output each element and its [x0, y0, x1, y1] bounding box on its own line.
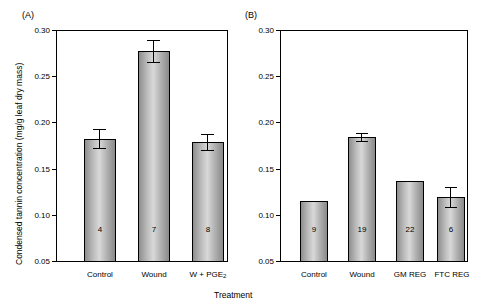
panel-a-ytick-mark-2: [52, 122, 56, 123]
panel-a-ytick-mark-4: [52, 215, 56, 216]
panel-b-label: (B): [245, 10, 257, 20]
figure-root: (A) (B) Condensed tannin concentration (…: [0, 0, 488, 308]
panel-b-ytick-2: 0.20: [246, 118, 274, 127]
panel-a-err-wound-lower: [153, 51, 154, 62]
panel-a-err-wound: [153, 40, 154, 51]
panel-a-ytick-mark-3: [52, 169, 56, 170]
panel-a-ytick-1: 0.25: [22, 72, 50, 81]
panel-b-ytick-mark-3: [276, 169, 280, 170]
panel-a-cat-control: Control: [74, 270, 126, 279]
panel-a-errcap-control-top: [93, 129, 106, 130]
panel-b-ytick-mark-5: [276, 261, 280, 262]
panel-a-errcap-control-bottom: [93, 148, 106, 149]
panel-b-cat-control: Control: [288, 270, 340, 279]
panel-a-n-control: 4: [84, 225, 116, 234]
panel-a-cat-wound: Wound: [128, 270, 180, 279]
panel-b-ytick-0: 0.30: [246, 26, 274, 35]
panel-a-ytick-mark-5: [52, 261, 56, 262]
panel-b-ytick-mark-1: [276, 76, 280, 77]
panel-a-err-wpge2: [207, 134, 208, 142]
panel-a-bar-wpge2: [192, 142, 224, 262]
panel-a-err-wpge2-lower: [207, 142, 208, 150]
panel-b-ytick-3: 0.15: [246, 165, 274, 174]
panel-b-err-ftc-reg: [450, 187, 451, 197]
panel-a-ytick-4: 0.10: [22, 211, 50, 220]
panel-a-cat-wpge2-text: W + PGE: [190, 270, 224, 279]
panel-b-ytick-5: 0.05: [246, 257, 274, 266]
panel-b-errcap-ftc-bottom: [445, 207, 457, 208]
panel-b-ytick-mark-2: [276, 122, 280, 123]
panel-a-bar-control: [84, 139, 116, 262]
panel-b-ytick-1: 0.25: [246, 72, 274, 81]
panel-b-n-wound: 19: [348, 225, 376, 234]
panel-b-cat-wound: Wound: [336, 270, 388, 279]
panel-b-bar-wound: [348, 137, 376, 262]
panel-a-ytick-5: 0.05: [22, 257, 50, 266]
panel-a-err-control: [99, 129, 100, 139]
panel-a-ytick-3: 0.15: [22, 165, 50, 174]
panel-a-ytick-mark-0: [52, 30, 56, 31]
panel-a-n-wpge2: 8: [192, 225, 224, 234]
panel-a-cat-wpge2-sub: 2: [223, 273, 226, 279]
panel-b-n-ftc-reg: 6: [437, 225, 465, 234]
panel-b-bar-gm-reg: [396, 181, 424, 262]
panel-a-errcap-wound-top: [147, 40, 160, 41]
panel-b-ytick-4: 0.10: [246, 211, 274, 220]
panel-a-ytick-mark-1: [52, 76, 56, 77]
panel-b-errcap-wound-top: [356, 133, 368, 134]
panel-a-ytick-0: 0.30: [22, 26, 50, 35]
panel-b-n-gm-reg: 22: [396, 225, 424, 234]
panel-b-errcap-wound-bottom: [356, 141, 368, 142]
y-axis-label: Condensed tannin concentration (mg/g lea…: [14, 63, 24, 265]
panel-a-errcap-wpge2-top: [201, 134, 214, 135]
x-axis-label: Treatment: [214, 290, 252, 300]
panel-a-n-wound: 7: [138, 225, 170, 234]
panel-b-ytick-mark-0: [276, 30, 280, 31]
panel-a-ytick-2: 0.20: [22, 118, 50, 127]
panel-a-label: (A): [22, 10, 34, 20]
panel-a-cat-wpge2: W + PGE2: [180, 270, 236, 279]
panel-b-err-ftc-reg-lower: [450, 197, 451, 207]
panel-a-errcap-wpge2-bottom: [201, 150, 214, 151]
panel-a-errcap-wound-bottom: [147, 62, 160, 63]
panel-a-err-control-lower: [99, 139, 100, 148]
panel-b-ytick-mark-4: [276, 215, 280, 216]
panel-b-errcap-ftc-top: [445, 187, 457, 188]
panel-b-cat-ftc-reg: FTC REG: [426, 270, 478, 279]
panel-b-n-control: 9: [300, 225, 328, 234]
